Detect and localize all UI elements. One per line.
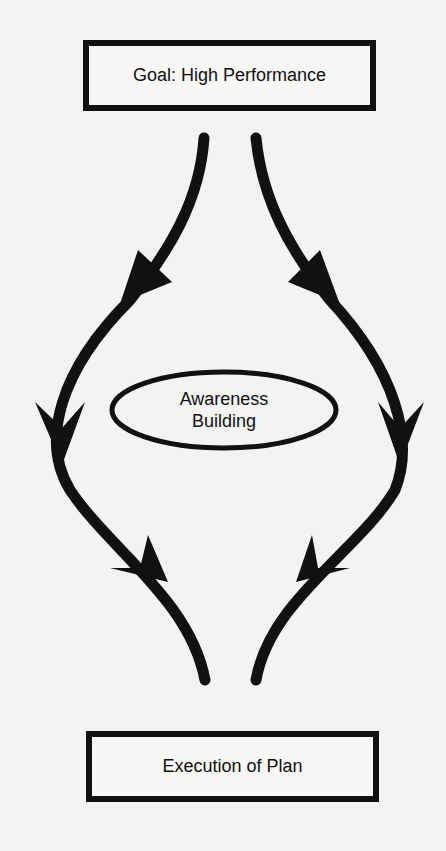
awareness-building-label: Awareness Building xyxy=(107,370,341,450)
execution-box: Execution of Plan xyxy=(86,731,379,802)
execution-label: Execution of Plan xyxy=(162,756,302,777)
awareness-line1: Awareness xyxy=(180,388,269,410)
goal-label: Goal: High Performance xyxy=(133,65,326,86)
goal-box: Goal: High Performance xyxy=(83,40,376,111)
awareness-line2: Building xyxy=(192,410,256,432)
